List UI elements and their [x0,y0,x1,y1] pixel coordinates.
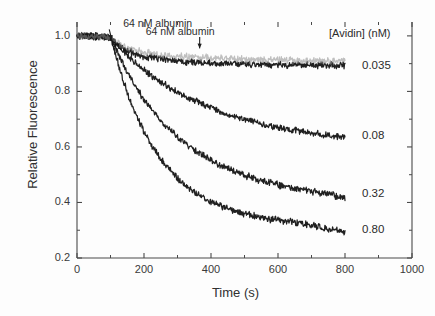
series-label-0.80: 0.80 [362,224,384,236]
x-axis-title: Time (s) [18,286,435,299]
x-tick-label-400: 400 [191,264,231,275]
y-tick-label-0.2: 0.2 [40,252,70,263]
y-tick-label-1.0: 1.0 [40,30,70,41]
x-tick-label-0: 0 [57,264,97,275]
figure-container: 1.0 0.8 0.6 0.4 0.2 0 200 400 600 800 10… [0,0,435,316]
legend-title: [Avidin] (nM) [329,28,391,39]
series-label-0.32: 0.32 [362,188,384,200]
series-label-0.035: 0.035 [362,60,391,72]
series-label-0.08: 0.08 [362,130,384,142]
y-tick-label-0.8: 0.8 [40,85,70,96]
x-tick-label-1000: 1000 [392,264,432,275]
x-tick-label-600: 600 [258,264,298,275]
series-layer [77,33,345,235]
y-tick-label-0.6: 0.6 [40,141,70,152]
x-tick-label-800: 800 [325,264,365,275]
annotation-albumin-2: 64 nM albumin [146,26,215,37]
y-tick-label-0.4: 0.4 [40,196,70,207]
x-tick-label-200: 200 [124,264,164,275]
y-axis-title: Relative Fluorescence [26,45,39,205]
